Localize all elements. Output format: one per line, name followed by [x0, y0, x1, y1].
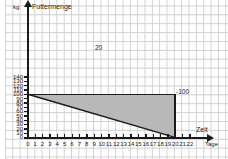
x-tick-mark	[86, 134, 87, 138]
x-tick-mark	[64, 134, 65, 138]
x-tick-mark	[175, 134, 176, 138]
y-tick-mark	[24, 76, 28, 77]
y-tick-mark	[24, 120, 28, 121]
x-tick-mark	[57, 134, 58, 138]
annotation-horizontal-20: 20	[95, 44, 102, 51]
y-tick-mark	[24, 102, 28, 103]
x-tick-mark	[189, 134, 190, 138]
x-tick-mark	[167, 134, 168, 138]
x-tick-mark	[116, 134, 117, 138]
y-tick-mark	[24, 81, 28, 82]
x-tick-mark	[160, 134, 161, 138]
y-tick-mark	[24, 107, 28, 108]
x-axis-unit-label: Tage	[205, 141, 218, 147]
y-tick-mark	[24, 111, 28, 112]
y-axis-arrow-icon	[24, 0, 32, 7]
x-tick-label: 22	[184, 141, 196, 147]
x-tick-mark	[182, 134, 183, 138]
y-tick-mark	[24, 128, 28, 129]
y-axis-title: Futtermenge	[32, 3, 72, 10]
y-tick-mark	[24, 115, 28, 116]
x-tick-mark	[153, 134, 154, 138]
x-tick-mark	[27, 134, 28, 138]
chart-figure: kg Futtermenge Zeit Tage 010203040506070…	[0, 0, 228, 159]
x-axis-title: Zeit	[196, 126, 208, 133]
x-tick-mark	[145, 134, 146, 138]
y-tick-mark	[24, 94, 28, 95]
x-tick-mark	[72, 134, 73, 138]
x-tick-mark	[123, 134, 124, 138]
x-tick-mark	[108, 134, 109, 138]
y-tick-mark	[24, 89, 28, 90]
horizontal-leg	[28, 94, 176, 95]
annotation-vertical-neg100: -100	[176, 88, 189, 95]
x-tick-mark	[130, 134, 131, 138]
y-tick-mark	[24, 98, 28, 99]
x-tick-mark	[101, 134, 102, 138]
x-tick-mark	[42, 134, 43, 138]
y-axis-tick-labels: 0102030405060708090100110120130140	[3, 0, 23, 159]
vertical-leg	[174, 94, 175, 139]
y-tick-mark	[24, 124, 28, 125]
x-tick-mark	[79, 134, 80, 138]
y-tick-label: 140	[3, 74, 23, 80]
x-tick-mark	[35, 134, 36, 138]
y-tick-mark	[24, 85, 28, 86]
x-tick-mark	[49, 134, 50, 138]
x-tick-mark	[94, 134, 95, 138]
x-tick-mark	[138, 134, 139, 138]
